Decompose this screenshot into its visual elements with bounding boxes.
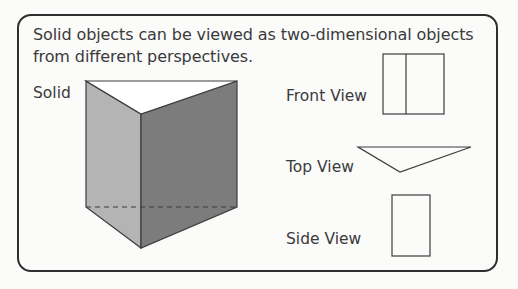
top-view-figure xyxy=(358,147,471,172)
front-view-figure xyxy=(383,54,444,114)
triangular-prism-figure xyxy=(86,81,237,248)
side-view-figure xyxy=(392,195,430,256)
figures-canvas xyxy=(0,0,518,289)
